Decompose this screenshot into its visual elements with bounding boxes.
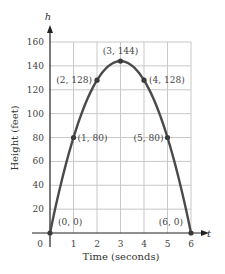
y-tick-label: 80 <box>33 133 45 143</box>
x-tick-label: 0 <box>37 239 43 249</box>
x-tick-label: 1 <box>71 239 77 249</box>
y-tick-label: 100 <box>27 109 44 119</box>
point-label: (6, 0) <box>159 217 183 227</box>
x-axis-title: Time (seconds) <box>83 251 160 262</box>
data-point <box>94 78 99 83</box>
y-tick-label: 40 <box>33 180 45 190</box>
data-point <box>47 230 52 235</box>
x-axis-variable: t <box>207 228 212 239</box>
y-tick-label: 120 <box>27 85 44 95</box>
point-label: (2, 128) <box>56 75 92 85</box>
x-tick-label: 4 <box>141 239 147 249</box>
parabola-chart: 012345620406080100120140160 (0, 0)(1, 80… <box>0 0 225 274</box>
point-label: (5, 80) <box>134 133 164 143</box>
y-tick-label: 160 <box>27 37 44 47</box>
y-axis-arrow-icon <box>47 25 53 33</box>
y-tick-label: 60 <box>33 156 45 166</box>
data-point <box>141 78 146 83</box>
y-tick-label: 140 <box>27 61 44 71</box>
x-tick-label: 3 <box>118 239 124 249</box>
data-point <box>118 59 123 64</box>
data-point <box>188 230 193 235</box>
y-tick-label: 20 <box>33 204 45 214</box>
data-point <box>71 135 76 140</box>
y-axis-title: Height (feet) <box>9 105 20 170</box>
data-point <box>165 135 170 140</box>
x-tick-label: 2 <box>94 239 100 249</box>
y-axis-variable: h <box>45 11 51 22</box>
x-tick-label: 6 <box>188 239 194 249</box>
point-label: (1, 80) <box>78 133 108 143</box>
point-label: (4, 128) <box>149 75 185 85</box>
point-label: (0, 0) <box>58 217 82 227</box>
point-label: (3, 144) <box>103 46 139 56</box>
x-tick-label: 5 <box>165 239 171 249</box>
